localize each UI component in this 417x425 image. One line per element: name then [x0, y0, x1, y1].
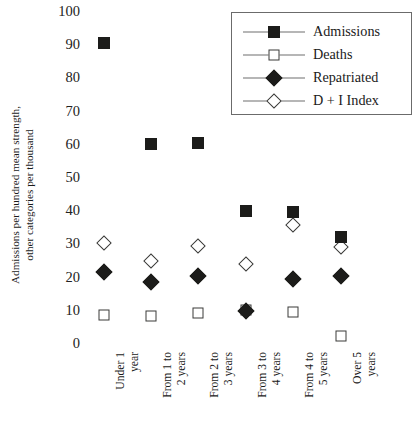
data-point-filled-square	[287, 206, 299, 218]
data-point-open-diamond	[190, 238, 206, 254]
x-tick-label-line: From 1 to	[161, 352, 175, 398]
data-point-filled-diamond	[285, 270, 302, 287]
data-point-open-square	[99, 309, 110, 320]
legend: AdmissionsDeathsRepatriatedD + I Index	[231, 12, 412, 115]
legend-item-label: Admissions	[307, 24, 380, 38]
x-tick-label-line: years	[365, 352, 379, 384]
scatter-chart: Admissions per hundred mean strength, ot…	[0, 0, 417, 425]
data-point-open-square	[192, 308, 203, 319]
legend-filled-diamond-icon	[266, 69, 283, 86]
legend-item-label: Repatriated	[307, 70, 378, 84]
legend-item-d-i-index[interactable]: D + I Index	[232, 89, 411, 112]
data-point-filled-diamond	[333, 267, 350, 284]
data-point-filled-diamond	[189, 267, 206, 284]
legend-marker-sample	[241, 70, 307, 86]
legend-item-deaths[interactable]: Deaths	[232, 43, 411, 66]
x-tick-label-line: From 3 to	[256, 352, 270, 398]
legend-marker-sample	[241, 93, 307, 109]
legend-item-label: D + I Index	[307, 93, 379, 107]
data-point-filled-square	[335, 231, 347, 243]
data-point-open-diamond	[143, 253, 159, 269]
legend-open-square-icon	[269, 49, 280, 60]
legend-item-label: Deaths	[307, 47, 352, 61]
legend-marker-sample	[241, 24, 307, 40]
data-point-filled-diamond	[96, 263, 113, 280]
x-axis-ticks: Under 1yearFrom 1 to2 yearsFrom 2 to3 ye…	[0, 352, 417, 425]
data-point-open-square	[146, 311, 157, 322]
legend-filled-square-icon	[268, 26, 280, 38]
x-tick-label-line: From 2 to	[208, 352, 222, 398]
data-point-filled-square	[98, 37, 110, 49]
x-tick-label-line: 2 years	[175, 352, 189, 398]
x-tick-label-line: 3 years	[221, 352, 235, 398]
data-point-open-square	[336, 330, 347, 341]
x-tick-label-line: 4 years	[270, 352, 284, 398]
data-point-open-diamond	[96, 236, 112, 252]
legend-item-admissions[interactable]: Admissions	[232, 20, 411, 43]
x-tick-label-line: year	[128, 352, 142, 390]
x-tick-label-line: 5 years	[317, 352, 331, 398]
data-point-open-diamond	[285, 217, 301, 233]
data-point-open-square	[288, 307, 299, 318]
x-tick-label-line: Under 1	[114, 352, 128, 390]
data-point-open-diamond	[238, 256, 254, 272]
data-point-filled-square	[240, 205, 252, 217]
x-tick-label-line: Over 5	[351, 352, 365, 384]
data-point-filled-diamond	[143, 273, 160, 290]
data-point-filled-square	[192, 137, 204, 149]
x-tick-label-line: From 4 to	[303, 352, 317, 398]
data-point-filled-square	[145, 138, 157, 150]
legend-open-diamond-icon	[266, 93, 282, 109]
legend-item-repatriated[interactable]: Repatriated	[232, 66, 411, 89]
legend-marker-sample	[241, 47, 307, 63]
